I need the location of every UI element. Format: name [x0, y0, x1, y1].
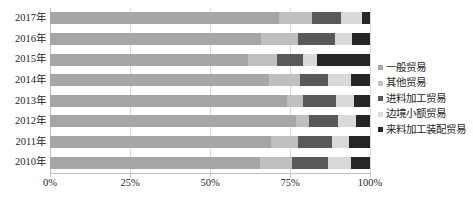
bar-segment-边境小额贸易[interactable]	[328, 74, 350, 86]
gridline-100%	[370, 8, 371, 173]
bar-row-2010年[interactable]	[50, 157, 370, 169]
stacked-bar-chart: 2017年2016年2015年2014年2013年2012年2011年2010年…	[0, 0, 473, 204]
y-axis-label-2011年: 2011年	[15, 132, 46, 153]
legend-item-label: 一般贸易	[386, 63, 426, 74]
chart-legend: 一般贸易其他贸易进料加工贸易边境小额贸易来料加工装配贸易	[378, 60, 473, 138]
x-axis-label: 100%	[358, 177, 383, 188]
bar-segment-一般贸易[interactable]	[50, 74, 269, 86]
bar-segment-一般贸易[interactable]	[50, 54, 248, 66]
legend-swatch-icon	[378, 65, 383, 70]
bar-segment-边境小额贸易[interactable]	[341, 12, 362, 24]
bar-series-container	[50, 8, 370, 173]
bar-segment-进料加工贸易[interactable]	[300, 74, 329, 86]
bar-segment-其他贸易[interactable]	[248, 54, 277, 66]
x-axis-labels: 0%25%50%75%100%	[50, 177, 371, 193]
x-axis-label: 50%	[200, 177, 219, 188]
legend-item-label: 边境小额贸易	[386, 109, 446, 120]
bar-segment-一般贸易[interactable]	[50, 95, 287, 107]
bar-segment-边境小额贸易[interactable]	[335, 33, 353, 45]
legend-swatch-icon	[378, 81, 383, 86]
bar-segment-来料加工装配贸易[interactable]	[362, 12, 370, 24]
y-axis-labels: 2017年2016年2015年2014年2013年2012年2011年2010年	[0, 8, 46, 173]
legend-swatch-icon	[378, 127, 383, 132]
bar-segment-进料加工贸易[interactable]	[312, 12, 341, 24]
legend-item-label: 来料加工装配贸易	[386, 125, 466, 136]
bar-segment-进料加工贸易[interactable]	[309, 115, 338, 127]
bar-row-2011年[interactable]	[50, 136, 370, 148]
bar-segment-其他贸易[interactable]	[287, 95, 303, 107]
bar-row-2014年[interactable]	[50, 74, 370, 86]
bar-segment-边境小额贸易[interactable]	[332, 136, 350, 148]
y-axis-label-2014年: 2014年	[15, 70, 46, 91]
legend-item-label: 其他贸易	[386, 78, 426, 89]
bar-segment-来料加工装配贸易[interactable]	[349, 136, 370, 148]
bar-segment-边境小额贸易[interactable]	[338, 115, 356, 127]
bar-row-2017年[interactable]	[50, 12, 370, 24]
bar-segment-来料加工装配贸易[interactable]	[356, 115, 370, 127]
y-axis-label-2010年: 2010年	[15, 152, 46, 173]
bar-segment-进料加工贸易[interactable]	[292, 157, 329, 169]
bar-segment-进料加工贸易[interactable]	[303, 95, 337, 107]
x-axis-label: 0%	[43, 177, 57, 188]
legend-item-来料加工装配贸易[interactable]: 来料加工装配贸易	[378, 122, 473, 138]
bar-segment-边境小额贸易[interactable]	[328, 157, 350, 169]
bar-segment-来料加工装配贸易[interactable]	[317, 54, 370, 66]
y-axis-label-2016年: 2016年	[15, 29, 46, 50]
y-axis-label-2012年: 2012年	[15, 111, 46, 132]
x-axis-label: 75%	[280, 177, 299, 188]
bar-segment-其他贸易[interactable]	[296, 115, 309, 127]
bar-segment-进料加工贸易[interactable]	[277, 54, 303, 66]
bar-segment-其他贸易[interactable]	[269, 74, 299, 86]
legend-item-一般贸易[interactable]: 一般贸易	[378, 60, 473, 76]
y-axis-label-2017年: 2017年	[15, 8, 46, 29]
legend-item-边境小额贸易[interactable]: 边境小额贸易	[378, 107, 473, 123]
bar-row-2016年[interactable]	[50, 33, 370, 45]
plot-area	[50, 8, 370, 173]
bar-segment-来料加工装配贸易[interactable]	[351, 74, 370, 86]
bar-segment-其他贸易[interactable]	[279, 12, 313, 24]
legend-swatch-icon	[378, 112, 383, 117]
bar-segment-一般贸易[interactable]	[50, 157, 260, 169]
bar-segment-边境小额贸易[interactable]	[336, 95, 354, 107]
bar-segment-其他贸易[interactable]	[271, 136, 298, 148]
bar-segment-其他贸易[interactable]	[260, 157, 292, 169]
bar-segment-来料加工装配贸易[interactable]	[352, 33, 370, 45]
legend-item-label: 进料加工贸易	[386, 94, 446, 105]
bar-segment-一般贸易[interactable]	[50, 115, 296, 127]
bar-segment-来料加工装配贸易[interactable]	[351, 157, 370, 169]
legend-item-其他贸易[interactable]: 其他贸易	[378, 76, 473, 92]
bar-segment-进料加工贸易[interactable]	[298, 136, 332, 148]
bar-segment-一般贸易[interactable]	[50, 33, 261, 45]
bar-segment-来料加工装配贸易[interactable]	[354, 95, 370, 107]
bar-row-2015年[interactable]	[50, 54, 370, 66]
x-axis-label: 25%	[120, 177, 139, 188]
legend-swatch-icon	[378, 96, 383, 101]
y-axis-label-2013年: 2013年	[15, 91, 46, 112]
y-axis-label-2015年: 2015年	[15, 49, 46, 70]
bar-segment-一般贸易[interactable]	[50, 136, 271, 148]
bar-segment-进料加工贸易[interactable]	[298, 33, 335, 45]
bar-segment-边境小额贸易[interactable]	[303, 54, 317, 66]
bar-segment-一般贸易[interactable]	[50, 12, 279, 24]
bar-row-2013年[interactable]	[50, 95, 370, 107]
bar-segment-其他贸易[interactable]	[261, 33, 298, 45]
legend-item-进料加工贸易[interactable]: 进料加工贸易	[378, 91, 473, 107]
bar-row-2012年[interactable]	[50, 115, 370, 127]
